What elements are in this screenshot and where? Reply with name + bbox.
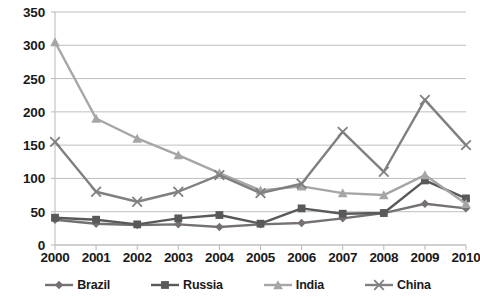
x-axis-tick-label: 2010	[452, 250, 480, 265]
x-axis-tick-label: 2003	[164, 250, 193, 265]
x-marker-icon	[338, 127, 348, 137]
square-marker-icon	[92, 216, 100, 224]
gridlines	[51, 12, 466, 245]
series-india	[50, 37, 471, 208]
triangle-marker-icon	[50, 37, 60, 46]
square-marker-icon	[51, 214, 59, 222]
legend-label: India	[296, 279, 324, 292]
square-marker-icon	[380, 209, 388, 217]
legend-item-india[interactable]: India	[263, 279, 324, 292]
square-marker-icon	[339, 210, 347, 218]
x-axis-tick-label: 2007	[328, 250, 357, 265]
x-axis-tick-label: 2001	[82, 250, 111, 265]
legend-item-china[interactable]: China	[364, 279, 431, 292]
x-marker-icon	[364, 279, 394, 291]
x-marker-icon	[420, 95, 430, 105]
legend-label: China	[397, 279, 431, 292]
diamond-marker-icon	[421, 200, 429, 208]
chart-legend: BrazilRussiaIndiaChina	[0, 274, 475, 296]
diamond-marker-icon	[297, 219, 305, 227]
diamond-marker-icon	[44, 279, 74, 291]
square-marker-icon	[257, 220, 265, 228]
legend-item-brazil[interactable]: Brazil	[44, 279, 110, 292]
x-axis-tick-label: 2006	[287, 250, 316, 265]
square-marker-icon	[216, 211, 224, 219]
x-marker-icon	[379, 167, 389, 177]
x-axis-tick-label: 2009	[410, 250, 439, 265]
square-marker-icon	[298, 204, 306, 212]
triangle-marker-icon	[263, 279, 293, 291]
square-marker-icon	[161, 281, 169, 289]
x-axis-tick-label: 2005	[246, 250, 275, 265]
x-axis-tick-label: 2004	[205, 250, 234, 265]
x-axis-tick-label: 2002	[123, 250, 152, 265]
square-marker-icon	[133, 220, 141, 228]
x-axis-tick-label: 2008	[369, 250, 398, 265]
legend-item-russia[interactable]: Russia	[150, 279, 223, 292]
triangle-marker-icon	[91, 114, 101, 123]
legend-label: Russia	[183, 279, 223, 292]
square-marker-icon	[150, 279, 180, 291]
diamond-marker-icon	[215, 223, 223, 231]
square-marker-icon	[174, 214, 182, 222]
series-layer	[50, 37, 471, 231]
x-axis-tick-label: 2000	[41, 250, 70, 265]
diamond-marker-icon	[55, 281, 63, 289]
triangle-marker-icon	[420, 170, 430, 179]
legend-label: Brazil	[77, 279, 110, 292]
